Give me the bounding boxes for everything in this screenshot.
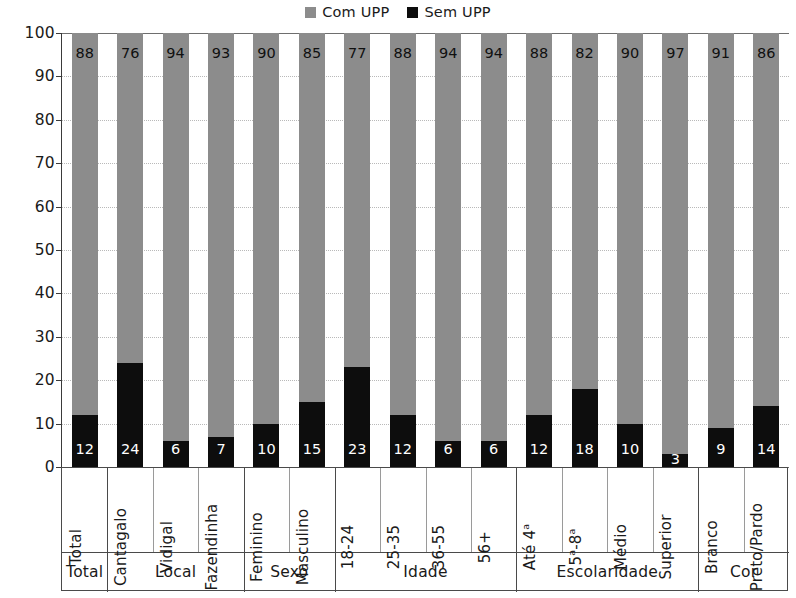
segment-sem-upp: 6	[481, 441, 507, 467]
bar-cantagalo: 7624	[117, 33, 143, 467]
y-tick-label: 0	[45, 458, 55, 476]
value-label-com-upp: 85	[303, 45, 321, 61]
y-tick-40	[56, 293, 62, 294]
value-label-sem-upp: 6	[171, 441, 180, 457]
value-label-sem-upp: 10	[621, 441, 639, 457]
bar-m-dio: 9010	[617, 33, 643, 467]
category-cell: Feminino	[244, 468, 289, 552]
category-divider	[653, 468, 654, 552]
category-divider	[562, 468, 563, 552]
value-label-com-upp: 90	[257, 45, 275, 61]
segment-com-upp: 88	[72, 33, 98, 415]
legend-label: Sem UPP	[424, 4, 490, 20]
segment-com-upp: 88	[526, 33, 552, 415]
segment-sem-upp: 12	[390, 415, 416, 467]
y-tick-60	[56, 207, 62, 208]
value-label-sem-upp: 7	[216, 441, 225, 457]
group-label: Sexo	[244, 552, 335, 592]
segment-com-upp: 88	[390, 33, 416, 415]
category-divider	[744, 468, 745, 552]
category-cell: Cantagalo	[107, 468, 152, 552]
category-cell: Branco	[698, 468, 743, 552]
category-divider	[289, 468, 290, 552]
y-tick-label: 40	[35, 284, 55, 302]
category-divider	[607, 468, 608, 552]
segment-sem-upp: 3	[662, 454, 688, 467]
value-label-sem-upp: 3	[671, 451, 680, 467]
value-label-sem-upp: 6	[444, 441, 453, 457]
category-cell: Fazendinha	[198, 468, 243, 552]
plot-area: 8812762494693790108515772388129469468812…	[61, 33, 788, 467]
segment-sem-upp: 23	[344, 367, 370, 467]
category-divider	[198, 468, 199, 552]
bar-5-8: 8218	[572, 33, 598, 467]
segment-com-upp: 86	[753, 33, 779, 406]
category-cell: Vidigal	[153, 468, 198, 552]
segment-com-upp: 90	[617, 33, 643, 424]
segment-com-upp: 94	[435, 33, 461, 441]
square-swatch-black	[407, 7, 418, 18]
value-label-com-upp: 90	[621, 45, 639, 61]
y-tick-20	[56, 380, 62, 381]
value-label-com-upp: 82	[575, 45, 593, 61]
segment-sem-upp: 6	[435, 441, 461, 467]
bar-fazendinha: 937	[208, 33, 234, 467]
segment-com-upp: 93	[208, 33, 234, 437]
value-label-com-upp: 88	[394, 45, 412, 61]
segment-sem-upp: 24	[117, 363, 143, 467]
category-cell: Preto/Pardo	[744, 468, 789, 552]
segment-sem-upp: 14	[753, 406, 779, 467]
value-label-sem-upp: 18	[575, 441, 593, 457]
category-cell: Superior	[653, 468, 698, 552]
segment-sem-upp: 12	[72, 415, 98, 467]
legend-entry-1: Com UPP	[305, 4, 389, 20]
segment-com-upp: 76	[117, 33, 143, 363]
stacked-bar-chart: Com UPPSem UPP 0102030405060708090100 88…	[0, 0, 796, 598]
value-label-sem-upp: 23	[348, 441, 366, 457]
bar-56: 946	[481, 33, 507, 467]
y-tick-50	[56, 250, 62, 251]
y-tick-100	[56, 33, 62, 34]
bar-vidigal: 946	[163, 33, 189, 467]
category-cell: Total	[62, 468, 107, 552]
segment-com-upp: 94	[481, 33, 507, 441]
bar-preto-pardo: 8614	[753, 33, 779, 467]
segment-sem-upp: 18	[572, 389, 598, 467]
segment-com-upp: 94	[163, 33, 189, 441]
y-tick-label: 60	[35, 198, 55, 216]
value-label-com-upp: 94	[166, 45, 184, 61]
value-label-sem-upp: 14	[757, 441, 775, 457]
y-tick-10	[56, 424, 62, 425]
value-label-com-upp: 86	[757, 45, 775, 61]
segment-sem-upp: 10	[253, 424, 279, 467]
y-tick-label: 20	[35, 371, 55, 389]
y-tick-90	[56, 76, 62, 77]
value-label-com-upp: 97	[666, 45, 684, 61]
y-tick-30	[56, 337, 62, 338]
value-label-sem-upp: 24	[121, 441, 139, 457]
legend-label: Com UPP	[322, 4, 389, 20]
segment-sem-upp: 12	[526, 415, 552, 467]
category-divider	[380, 468, 381, 552]
segment-com-upp: 85	[299, 33, 325, 402]
bar-at-4: 8812	[526, 33, 552, 467]
y-tick-80	[56, 120, 62, 121]
y-tick-label: 90	[35, 67, 55, 85]
category-cell: 36-55	[426, 468, 471, 552]
category-divider	[426, 468, 427, 552]
y-tick-label: 80	[35, 111, 55, 129]
segment-sem-upp: 10	[617, 424, 643, 467]
y-tick-label: 70	[35, 154, 55, 172]
category-cell: 18-24	[335, 468, 380, 552]
category-divider	[471, 468, 472, 552]
category-cell: 5a-8a	[562, 468, 607, 552]
value-label-sem-upp: 12	[530, 441, 548, 457]
value-label-com-upp: 94	[484, 45, 502, 61]
y-tick-70	[56, 163, 62, 164]
value-label-com-upp: 91	[712, 45, 730, 61]
y-axis-tick-labels: 0102030405060708090100	[0, 33, 55, 467]
bar-18-24: 7723	[344, 33, 370, 467]
y-tick-label: 10	[35, 415, 55, 433]
segment-com-upp: 90	[253, 33, 279, 424]
segment-sem-upp: 9	[708, 428, 734, 467]
